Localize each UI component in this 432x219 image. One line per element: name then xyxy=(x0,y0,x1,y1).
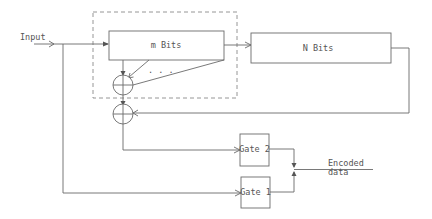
gate1-label: Gate 1 xyxy=(240,187,271,197)
tap-line-2 xyxy=(129,60,149,77)
m-bits-label: m Bits xyxy=(151,40,182,50)
gate2-output-arrow xyxy=(292,163,297,168)
input-arrow-2 xyxy=(103,42,109,47)
n-bits-label: N Bits xyxy=(303,43,334,53)
encoded-label-line2: data xyxy=(328,167,348,177)
xor1-icon xyxy=(113,75,133,95)
gate1-output-arrow xyxy=(292,171,297,176)
tap-dots: . . . xyxy=(148,65,174,75)
encoder-diagram: Input m Bits N Bits . . . Gate 2 xyxy=(0,0,432,219)
xor2-icon xyxy=(113,104,133,124)
gate2-label: Gate 2 xyxy=(239,144,270,154)
xor2-to-gate2-line xyxy=(123,124,240,150)
gate2-output-line xyxy=(269,149,294,167)
tap-line-3 xyxy=(133,60,224,85)
input-label: Input xyxy=(20,32,46,42)
gate1-output-line xyxy=(270,172,294,192)
